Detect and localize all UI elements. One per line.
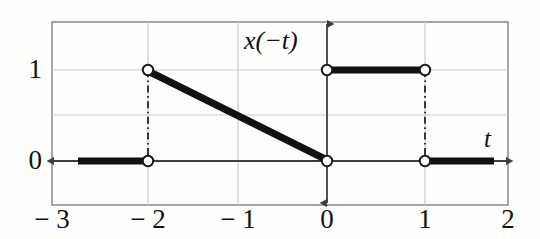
x-tick-label-2: 2: [473, 206, 540, 233]
signal-plot-figure: 1 0 − 3 − 2 − 1 0 1 2 x(−t) t: [0, 0, 540, 239]
marker-t-minus2-y1: [143, 65, 153, 75]
x-tick-label-0: 0: [292, 206, 362, 233]
amplitude-axis-title: x(−t): [244, 28, 298, 54]
x-tick-label-minus1: − 1: [203, 206, 273, 233]
y-tick-label-0: 0: [8, 147, 42, 174]
marker-t-0-y1: [322, 65, 332, 75]
x-tick-label-minus2: − 2: [113, 206, 183, 233]
x-tick-label-1: 1: [390, 206, 460, 233]
marker-t-1-y1: [420, 65, 430, 75]
marker-t-1-y0: [420, 156, 430, 166]
t-axis-title: t: [484, 126, 491, 151]
y-tick-label-1: 1: [8, 56, 42, 83]
x-tick-label-minus3: − 3: [17, 206, 87, 233]
marker-t-minus2-y0: [143, 156, 153, 166]
horizontal-gridlines: [52, 70, 508, 115]
marker-t-0-y0: [322, 156, 332, 166]
